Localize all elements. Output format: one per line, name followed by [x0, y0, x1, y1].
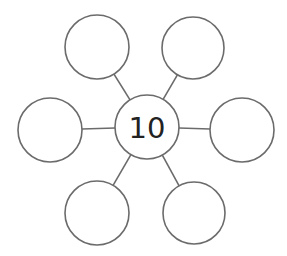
outer-node-top-right[interactable]	[162, 17, 224, 79]
number-web-diagram: 10	[0, 0, 287, 256]
outer-node-right[interactable]	[210, 98, 274, 162]
center-label: 10	[129, 111, 166, 145]
empty-circle-top-left[interactable]	[65, 15, 129, 79]
empty-circle-bottom-right[interactable]	[163, 182, 225, 244]
outer-node-top-left[interactable]	[65, 15, 129, 79]
empty-circle-bottom-left[interactable]	[65, 181, 129, 245]
connector-line-top-right	[163, 75, 177, 100]
outer-node-left[interactable]	[18, 98, 82, 162]
outer-node-bottom-right[interactable]	[163, 182, 225, 244]
connector-line-top-left	[114, 74, 130, 100]
center-node: 10	[115, 95, 179, 159]
empty-circle-left[interactable]	[18, 98, 82, 162]
outer-node-bottom-left[interactable]	[65, 181, 129, 245]
connector-line-bottom-left	[113, 155, 131, 186]
connector-line-bottom-right	[162, 155, 179, 186]
empty-circle-top-right[interactable]	[162, 17, 224, 79]
connector-line-left	[82, 128, 115, 129]
connector-line-right	[179, 128, 210, 129]
empty-circle-right[interactable]	[210, 98, 274, 162]
